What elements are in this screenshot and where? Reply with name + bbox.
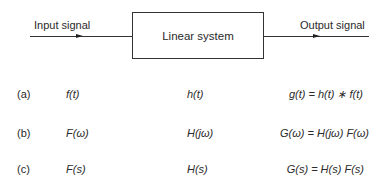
output-signal-label: Output signal [300, 19, 365, 31]
output-expression: g(t) = h(t) ∗ f(t) [289, 88, 363, 101]
input-arrow-icon [76, 34, 83, 38]
output-expression: G(s) = H(s) F(s) [287, 163, 364, 175]
input-expression: F(s) [66, 163, 86, 175]
input-expression: f(t) [66, 88, 79, 100]
row-label: (c) [17, 163, 30, 175]
row-label: (b) [17, 127, 30, 139]
input-signal-label: Input signal [34, 19, 90, 31]
system-expression: h(t) [187, 88, 204, 100]
system-expression: H(jω) [187, 127, 213, 139]
output-arrow-icon [313, 34, 320, 38]
linear-system-label: Linear system [133, 30, 263, 42]
system-expression: H(s) [187, 163, 208, 175]
input-expression: F(ω) [66, 127, 89, 139]
linear-system-box: Linear system [132, 12, 264, 59]
row-label: (a) [17, 88, 30, 100]
output-expression: G(ω) = H(jω) F(ω) [280, 127, 369, 139]
